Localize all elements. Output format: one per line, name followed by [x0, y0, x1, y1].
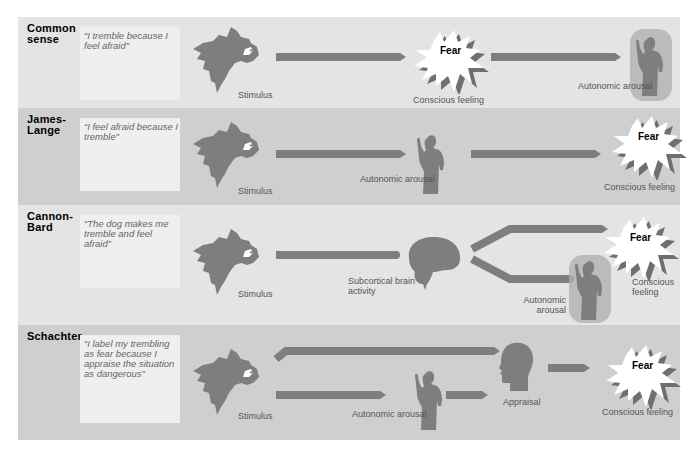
quote-box: “The dog makes me tremble and feel afrai… [80, 215, 180, 288]
trembling-person-halo-icon [569, 255, 611, 323]
theory-name: James-Lange [27, 114, 87, 136]
autonomic-arousal-label: Autonomic arousal [360, 174, 412, 184]
fear-burst-icon: Fear [598, 343, 684, 409]
stimulus-label: Stimulus [238, 90, 273, 100]
wolf-stimulus-icon [190, 227, 262, 297]
quote-box: “I feel afraid because I tremble” [80, 118, 180, 191]
label-text: Autonomic arousal [523, 295, 566, 315]
svg-text:Fear: Fear [638, 131, 659, 142]
trembling-person-icon [415, 132, 449, 196]
svg-text:Fear: Fear [632, 360, 653, 371]
theory-name: Cannon-Bard [27, 211, 87, 233]
row-james-lange: James-Lange “I feel afraid because I tre… [18, 108, 680, 205]
label-text: Autonomic arousal [352, 409, 427, 419]
row-common-sense: Common sense “I tremble because I feel a… [18, 17, 680, 108]
stimulus-label: Stimulus [238, 289, 273, 299]
arrow [446, 391, 482, 399]
theory-name: Common sense [27, 23, 87, 45]
row-cannon-bard: Cannon-Bard “The dog makes me tremble an… [18, 205, 680, 325]
row-schachter: Schachter “I label my trembling as fear … [18, 325, 680, 440]
conscious-feeling-label: Conscious feeling [604, 182, 675, 192]
arrow [471, 150, 595, 158]
fear-burst-icon: Fear [604, 114, 690, 180]
theory-name: Schachter [27, 331, 87, 342]
arrow [491, 53, 615, 61]
arrow [276, 53, 400, 61]
quote-text: “I tremble because I feel afraid” [84, 31, 180, 51]
label-text: Subcortical brain activity [348, 276, 415, 296]
label-text: Conscious feeling [632, 277, 674, 297]
fear-burst-icon: Fear [406, 28, 492, 94]
arrow [276, 251, 400, 259]
conscious-feeling-label: Conscious feeling [413, 95, 484, 105]
autonomic-arousal-label: Autonomic arousal [352, 409, 406, 419]
conscious-feeling-label: Conscious feeling [602, 407, 673, 417]
wolf-stimulus-icon [190, 25, 262, 95]
arrow [276, 391, 380, 399]
svg-text:Fear: Fear [440, 45, 461, 56]
wolf-stimulus-icon [190, 347, 262, 417]
head-profile-icon [498, 341, 538, 391]
appraisal-label: Appraisal [503, 397, 541, 407]
quote-text: “I label my trembling as fear because I … [84, 339, 180, 379]
wolf-stimulus-icon [190, 120, 262, 190]
quote-box: “I tremble because I feel afraid” [80, 27, 180, 100]
trembling-person-icon [413, 369, 447, 431]
autonomic-arousal-label: Autonomic arousal [578, 81, 630, 91]
subcortical-brain-activity-label: Subcortical brain activity [348, 276, 418, 296]
stimulus-label: Stimulus [238, 411, 273, 421]
label-text: Autonomic arousal [578, 81, 653, 91]
quote-box: “I label my trembling as fear because I … [80, 335, 180, 423]
label-text: Autonomic arousal [360, 174, 435, 184]
autonomic-arousal-label: Autonomic arousal [516, 295, 566, 315]
arrow [548, 364, 584, 372]
stimulus-label: Stimulus [238, 186, 273, 196]
arrow [276, 150, 400, 158]
quote-text: “The dog makes me tremble and feel afrai… [84, 219, 180, 249]
quote-text: “I feel afraid because I tremble” [84, 122, 180, 142]
svg-text:Fear: Fear [630, 232, 651, 243]
conscious-feeling-label: Conscious feeling [632, 277, 682, 297]
appraisal-arrow [272, 343, 502, 367]
